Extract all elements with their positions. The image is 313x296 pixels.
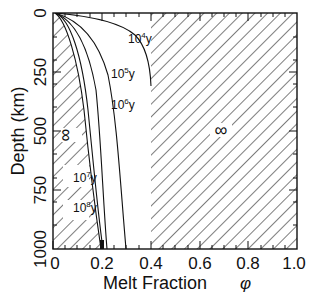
- phi-symbol: φ: [240, 274, 251, 293]
- infinity-label-right: ∞: [215, 120, 228, 140]
- y-axis-label: Depth (km): [8, 86, 28, 175]
- curve-label-1e6: 106y: [111, 97, 135, 112]
- melt-fraction-chart: 0 0.2 0.4 0.6 0.8 1.0 0 250 500 750 1000…: [0, 0, 313, 296]
- y-tick-label: 500: [31, 117, 50, 145]
- curve-label-1e7: 107y: [73, 170, 97, 185]
- y-tick-labels: 0 250 500 750 1000: [31, 8, 50, 268]
- x-tick-label: 0.8: [236, 254, 260, 273]
- x-tick-label: 0.6: [188, 254, 212, 273]
- y-tick-label: 0: [31, 8, 50, 17]
- curve-label-1e5: 105y: [111, 66, 135, 81]
- y-tick-label: 1000: [31, 230, 50, 268]
- x-tick-label: 0: [50, 254, 59, 273]
- x-tick-labels: 0 0.2 0.4 0.6 0.8 1.0: [50, 254, 306, 273]
- y-tick-label: 250: [31, 58, 50, 86]
- x-tick-label: 0.4: [139, 254, 163, 273]
- curve-label-1e8: 108y: [73, 200, 97, 215]
- x-tick-label: 0.2: [90, 254, 114, 273]
- infinity-label-left: ∞: [55, 128, 75, 141]
- x-tick-label: 1.0: [282, 254, 306, 273]
- x-axis-label: Melt Fraction: [103, 273, 207, 293]
- curve-label-1e4: 104y: [128, 31, 152, 46]
- y-tick-label: 750: [31, 176, 50, 204]
